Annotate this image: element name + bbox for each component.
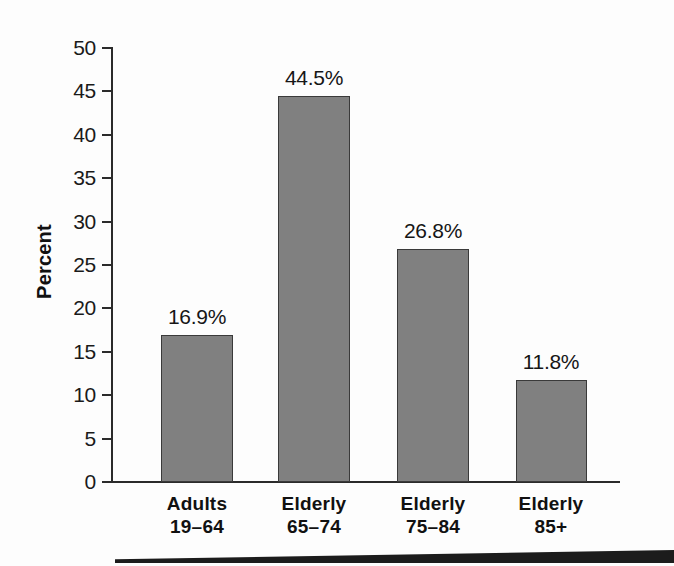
y-axis-tick-label-slot: 45	[0, 80, 96, 101]
x-axis-label-line1: Elderly	[282, 493, 347, 514]
y-axis-tick-label-slot: 20	[0, 297, 96, 318]
bar-chart-figure: Percent 05101520253035404550 16.9%44.5%2…	[0, 0, 674, 566]
y-axis-tick-mark	[102, 438, 113, 440]
bar-value-label: 16.9%	[137, 306, 257, 327]
y-axis-tick-mark	[102, 481, 113, 483]
x-axis-label-line1: Elderly	[519, 493, 584, 514]
y-axis-tick-mark	[102, 307, 113, 309]
y-axis-tick-label: 5	[0, 428, 96, 449]
y-axis-tick-mark	[102, 177, 113, 179]
y-axis-tick-label: 15	[0, 341, 96, 362]
bar	[397, 249, 469, 482]
y-axis-tick-label-slot: 0	[0, 471, 96, 492]
bottom-decorative-rule	[115, 550, 674, 563]
bar	[516, 380, 587, 482]
y-axis-tick-label: 30	[0, 211, 96, 232]
y-axis-tick-label: 35	[0, 167, 96, 188]
bar-value-label: 44.5%	[254, 67, 374, 88]
y-axis-tick-mark	[102, 47, 113, 49]
y-axis-tick-mark	[102, 394, 113, 396]
y-axis-tick-mark	[102, 134, 113, 136]
bar-value-label: 11.8%	[491, 351, 611, 372]
y-axis-tick-label: 10	[0, 384, 96, 405]
y-axis-tick-label-slot: 35	[0, 167, 96, 188]
x-axis-label-line1: Adults	[167, 493, 227, 514]
bar-value-label: 26.8%	[373, 220, 493, 241]
y-axis-tick-mark	[102, 90, 113, 92]
y-axis-tick-label: 20	[0, 297, 96, 318]
y-axis-tick-mark	[102, 351, 113, 353]
y-axis-tick-label-slot: 10	[0, 384, 96, 405]
x-axis-label-line1: Elderly	[401, 493, 466, 514]
y-axis-tick-mark	[102, 221, 113, 223]
x-axis-label-line2: 85+	[481, 515, 621, 538]
y-axis-tick-label: 40	[0, 124, 96, 145]
y-axis-tick-label: 25	[0, 254, 96, 275]
y-axis-tick-label-slot: 50	[0, 37, 96, 58]
y-axis-tick-label-slot: 40	[0, 124, 96, 145]
y-axis-tick-label-slot: 5	[0, 428, 96, 449]
y-axis-tick-label-slot: 25	[0, 254, 96, 275]
x-axis-category-label: Elderly85+	[481, 492, 621, 538]
y-axis-tick-label: 50	[0, 37, 96, 58]
y-axis-tick-mark	[102, 264, 113, 266]
bar	[161, 335, 233, 482]
y-axis-tick-label: 0	[0, 471, 96, 492]
y-axis-tick-label: 45	[0, 80, 96, 101]
y-axis-tick-label-slot: 15	[0, 341, 96, 362]
bar	[278, 96, 350, 482]
y-axis-tick-label-slot: 30	[0, 211, 96, 232]
